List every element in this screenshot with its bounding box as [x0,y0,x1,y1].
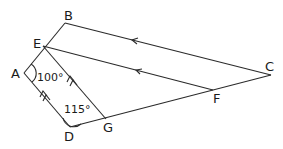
segment-CD [70,75,271,127]
point-label-A: A [11,66,20,81]
point-label-C: C [265,59,274,74]
diagram-canvas: B E A D G F C 100° 115° [0,0,283,149]
angle-label-D: 115° [64,103,91,116]
angle-label-A: 100° [37,71,64,84]
segment-BC [65,23,271,75]
geometry-diagram: B E A D G F C 100° 115° [0,0,283,149]
point-label-B: B [64,8,73,23]
segment-EF [43,46,213,90]
point-label-D: D [64,129,74,144]
point-label-E: E [33,36,41,51]
point-label-F: F [213,91,220,106]
point-label-G: G [103,120,113,135]
angle-arc-A [31,64,36,82]
parallel-arrow-icon [70,80,77,86]
